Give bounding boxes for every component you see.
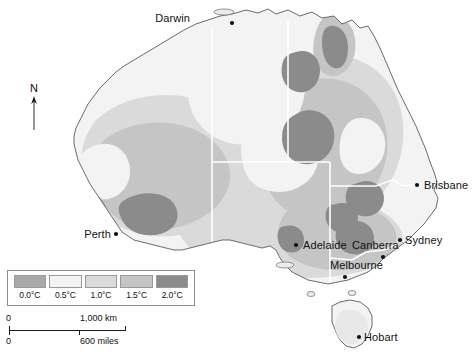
scale-tick-km-right bbox=[125, 326, 126, 331]
scale-km-zero: 0 bbox=[6, 313, 11, 323]
legend-item-0: 0.0°C bbox=[12, 275, 48, 300]
city-label-brisbane: Brisbane bbox=[424, 179, 468, 191]
legend-label-4: 2.0°C bbox=[154, 290, 190, 300]
pocket-0-5-wacoast bbox=[77, 144, 130, 200]
legend-label-2: 1.0°C bbox=[83, 290, 119, 300]
scale-bar: 0 1,000 km 0 600 miles bbox=[6, 313, 196, 353]
map-container: N Darwin Brisbane Sydney Canberra Melbou… bbox=[0, 0, 476, 359]
legend-swatch-3 bbox=[120, 275, 153, 288]
legend-swatch-0 bbox=[14, 275, 47, 288]
city-label-perth: Perth bbox=[84, 228, 111, 240]
kangaroo-island bbox=[276, 262, 294, 268]
north-arrow: N bbox=[30, 82, 38, 130]
city-dot-darwin bbox=[230, 21, 234, 25]
melville-island bbox=[214, 9, 234, 15]
legend-swatch-1 bbox=[49, 275, 82, 288]
city-dot-hobart bbox=[357, 335, 361, 339]
north-arrow-label: N bbox=[30, 82, 38, 94]
scale-miles-zero: 0 bbox=[6, 336, 11, 346]
scale-miles-max: 600 miles bbox=[80, 336, 119, 346]
city-dot-adelaide bbox=[294, 243, 298, 247]
city-dot-melbourne bbox=[343, 275, 347, 279]
city-label-hobart: Hobart bbox=[364, 331, 398, 343]
city-label-adelaide: Adelaide bbox=[303, 239, 347, 251]
city-label-darwin: Darwin bbox=[155, 12, 190, 24]
band-0-0-sw bbox=[72, 194, 107, 230]
legend-label-0: 0.0°C bbox=[12, 290, 48, 300]
legend-swatch-2 bbox=[85, 275, 118, 288]
legend-label-3: 1.5°C bbox=[119, 290, 155, 300]
legend-item-1: 0.5°C bbox=[48, 275, 84, 300]
legend-item-4: 2.0°C bbox=[154, 275, 190, 300]
legend-items-row: 0.0°C 0.5°C 1.0°C 1.5°C 2.0°C bbox=[8, 271, 194, 300]
scale-bar-miles-labels: 0 600 miles bbox=[6, 335, 196, 347]
bass-strait-island-a bbox=[307, 292, 315, 297]
scale-bar-km-labels: 0 1,000 km bbox=[6, 313, 196, 325]
city-label-canberra: Canberra bbox=[352, 239, 399, 251]
legend-item-3: 1.5°C bbox=[119, 275, 155, 300]
city-label-sydney: Sydney bbox=[405, 234, 443, 246]
legend-swatch-4 bbox=[156, 275, 189, 288]
legend-item-2: 1.0°C bbox=[83, 275, 119, 300]
legend-label-1: 0.5°C bbox=[48, 290, 84, 300]
city-dot-brisbane bbox=[415, 183, 419, 187]
city-dot-perth bbox=[114, 232, 118, 236]
scale-bar-graphic bbox=[6, 325, 196, 335]
bass-strait-island-b bbox=[348, 291, 356, 296]
city-label-melbourne: Melbourne bbox=[330, 259, 383, 271]
scale-km-max: 1,000 km bbox=[80, 313, 117, 323]
scale-bar-line bbox=[9, 330, 126, 331]
legend: 0.0°C 0.5°C 1.0°C 1.5°C 2.0°C bbox=[7, 270, 195, 306]
